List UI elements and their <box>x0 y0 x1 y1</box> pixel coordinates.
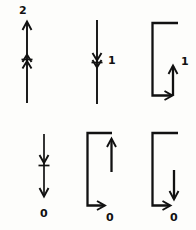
panel-bottom-left-label: 0 <box>40 207 48 220</box>
panel-top-right-open-rect <box>153 23 179 96</box>
panel-bottom-middle: 0 <box>88 133 117 224</box>
figure-canvas: 2 1 1 0 <box>0 0 196 230</box>
panel-top-middle-label: 1 <box>108 54 116 67</box>
panel-top-middle: 1 <box>92 20 116 104</box>
panel-top-left-label: 2 <box>19 4 27 17</box>
panel-top-left: 2 <box>19 4 33 103</box>
panel-bottom-right: 0 <box>153 133 179 224</box>
panel-bottom-middle-label: 0 <box>106 211 114 224</box>
diagram-svg: 2 1 1 0 <box>0 0 196 230</box>
panel-top-right-label: 1 <box>181 55 189 68</box>
panel-top-right: 1 <box>153 23 189 100</box>
panel-bottom-right-label: 0 <box>170 211 178 224</box>
panel-bottom-left: 0 <box>39 134 50 220</box>
